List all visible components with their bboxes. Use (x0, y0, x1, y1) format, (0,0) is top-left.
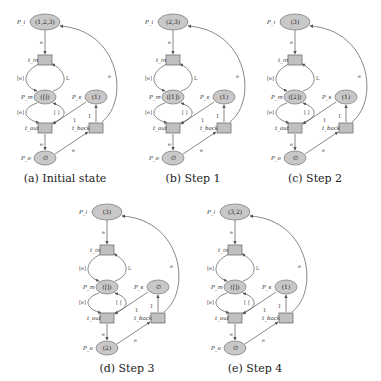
token-label: ([]) (40, 93, 49, 100)
transition-back: t_back (72, 123, 103, 133)
transition-out: t_out (87, 313, 114, 323)
place-name: P_m (20, 94, 33, 101)
arc (216, 293, 229, 313)
transition-in: t_in (28, 55, 52, 65)
arc-label: e (262, 337, 265, 343)
transition-name: t_out (153, 125, 168, 132)
transition-back: t_back (200, 123, 231, 133)
place-middle: ([])P_m (82, 280, 118, 294)
arc-label: 1 (216, 113, 219, 119)
transition-name: t_back (200, 125, 219, 132)
arc-label: e (40, 39, 43, 45)
arc (154, 103, 167, 123)
transition-back: t_back (262, 313, 293, 323)
arc-label: [e] (267, 109, 274, 115)
place-name: P_o (20, 155, 31, 162)
place-name: P_i (266, 19, 275, 26)
transition-name: t_in (218, 247, 229, 254)
panel-a: (1,2,3)P_i([])P_m(1)P_s∅P_ot_int_outt_ba… (0, 0, 130, 190)
place-s: (1)P_s (321, 90, 357, 104)
place-input: (3)P_i (78, 204, 122, 220)
place-name: P_s (199, 94, 209, 101)
place-name: P_m (148, 94, 161, 101)
arc (216, 254, 229, 281)
place-output: (2)P_o (82, 341, 118, 355)
arc-label: e (230, 331, 233, 337)
arc (26, 103, 39, 123)
transition-name: t_out (215, 315, 230, 322)
token-label: ([]) (230, 283, 239, 290)
place-s: (1)P_s (199, 90, 235, 104)
arc (88, 254, 101, 281)
arc (26, 64, 39, 91)
token-label: ([1]) (166, 93, 179, 100)
token-label: (1) (220, 93, 229, 100)
token-label: ∅ (233, 344, 238, 351)
arc-label: e (230, 229, 233, 235)
arc (276, 103, 289, 123)
place-input: (3,2)P_i (206, 204, 250, 220)
petri-net-diagram: (2,3)P_i([1])P_m(1)P_s∅P_ot_int_outt_bac… (128, 0, 258, 172)
token-label: (1,2,3) (35, 18, 55, 25)
arc-label: [ ] (304, 109, 310, 115)
arc-label: e (72, 147, 75, 153)
arc-label: 1 (88, 113, 91, 119)
arc (154, 64, 167, 91)
panel-b: (2,3)P_i([1])P_m(1)P_s∅P_ot_int_outt_bac… (128, 0, 258, 190)
place-output: ∅P_o (20, 151, 56, 165)
transition-out: t_out (275, 123, 302, 133)
place-output: ∅P_o (210, 341, 246, 355)
place-name: P_i (144, 19, 153, 26)
arc-label: 1 (263, 307, 266, 313)
arc-label: 1 (278, 303, 281, 309)
arc-label: [e] (17, 75, 24, 81)
place-output: ∅P_o (270, 151, 306, 165)
transition-back: t_back (134, 313, 165, 323)
place-input: (3)P_i (266, 14, 310, 30)
arc-label: e (168, 141, 171, 147)
place-name: P_i (16, 19, 25, 26)
token-label: ∅ (156, 283, 161, 290)
transition-in: t_in (278, 55, 302, 65)
token-label: (3,2) (228, 208, 242, 215)
place-name: P_m (210, 284, 223, 291)
token-label: ∅ (43, 154, 48, 161)
arc-label: e (40, 141, 43, 147)
arc-label: e (200, 147, 203, 153)
panel-caption: (b) Step 1 (128, 172, 258, 185)
place-middle: ([1])P_m (148, 90, 184, 104)
arc-label: [ ] (116, 299, 122, 305)
transition-name: t_back (134, 315, 153, 322)
arc-label: [e] (267, 75, 274, 81)
arc-label: L (256, 265, 260, 271)
panel-caption: (e) Step 4 (190, 362, 320, 375)
arc (276, 64, 289, 91)
panel-e: (3,2)P_i([])P_m(1)P_s∅P_ot_int_outt_back… (190, 190, 320, 380)
arc-label: L (128, 265, 132, 271)
arc-label: [ ] (182, 109, 188, 115)
transition-name: t_in (156, 57, 167, 64)
panel-c: (3)P_i([2])P_m(1)P_s∅P_ot_int_outt_backe… (250, 0, 380, 190)
token-label: (3) (291, 18, 300, 25)
place-middle: ([])P_m (210, 280, 246, 294)
arc (180, 64, 192, 91)
arc-label: e (298, 263, 301, 269)
panel-d: (3)P_i([])P_m∅P_s(2)P_ot_int_outt_backe[… (62, 190, 192, 380)
transition-in: t_in (218, 245, 242, 255)
petri-net-diagram: (3,2)P_i([])P_m(1)P_s∅P_ot_int_outt_back… (190, 190, 320, 362)
arc-label: [e] (17, 109, 24, 115)
arc (52, 64, 64, 91)
petri-net-diagram: (1,2,3)P_i([])P_m(1)P_s∅P_ot_int_outt_ba… (0, 0, 130, 172)
place-name: P_m (82, 284, 95, 291)
transition-name: t_in (90, 247, 101, 254)
arc-label: [e] (79, 299, 86, 305)
arc-label: L (316, 75, 320, 81)
arc-label: [e] (207, 265, 214, 271)
transition-name: t_out (25, 125, 40, 132)
token-label: (2,3) (166, 18, 180, 25)
token-label: (1) (92, 93, 101, 100)
place-name: P_o (82, 345, 93, 352)
arc-label: 1 (150, 303, 153, 309)
arc-label: e (290, 141, 293, 147)
arc (88, 293, 101, 313)
